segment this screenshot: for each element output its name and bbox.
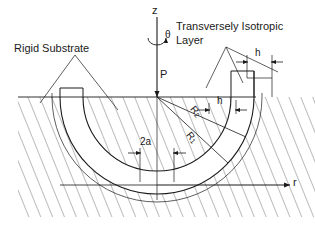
label-contact-2a: 2a xyxy=(140,137,151,147)
figure-container: Rigid Substrate Transversely Isotropic L… xyxy=(0,0,315,231)
label-z-axis: z xyxy=(152,5,158,16)
leader-layer-a xyxy=(206,47,226,88)
label-layer-line2: Layer xyxy=(176,35,204,46)
label-theta: θ xyxy=(165,30,171,40)
label-layer-line1: Transversely Isotropic xyxy=(176,21,283,32)
label-rigid-substrate: Rigid Substrate xyxy=(14,43,89,54)
leader-layer-b xyxy=(226,47,243,83)
label-h-outer: h xyxy=(255,48,261,58)
diagram-canvas xyxy=(0,0,315,231)
leader-layer-c xyxy=(226,47,278,72)
label-h-inner: h xyxy=(217,96,223,106)
label-load-P: P xyxy=(160,69,167,80)
leader-rigid-substrate-left xyxy=(40,55,75,103)
label-r-axis: r xyxy=(293,177,297,188)
